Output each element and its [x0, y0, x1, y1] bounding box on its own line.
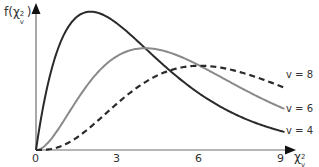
legend-v8: v = 8	[286, 70, 313, 80]
legend-v4: v = 4	[286, 126, 313, 136]
legend-v6: v = 6	[286, 104, 313, 114]
x-axis-label: χ2v	[294, 151, 308, 163]
y-axis-sup: 2	[20, 11, 24, 18]
curve-df-4	[36, 12, 284, 150]
x-tick-6: 6	[195, 153, 202, 164]
x-tick-9: 9	[277, 153, 284, 164]
chi-square-chart	[0, 0, 319, 167]
x-tick-3: 3	[113, 153, 120, 164]
y-axis-label-main: f(χ	[4, 5, 20, 19]
curve-df-8	[36, 66, 284, 150]
y-axis-arrow-icon	[32, 3, 41, 14]
x-tick-0: 0	[32, 153, 39, 164]
y-axis-label-close: )	[27, 5, 32, 19]
x-axis-sup: 2	[301, 154, 305, 161]
y-axis-sub: v	[20, 19, 24, 26]
y-axis-label: f(χ2v)	[4, 6, 32, 18]
x-axis-label-main: χ	[294, 150, 301, 164]
x-axis-sub: v	[301, 162, 305, 167]
curve-df-6	[36, 48, 284, 150]
